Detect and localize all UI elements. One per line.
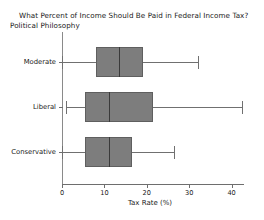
whisker-low-line bbox=[62, 62, 96, 63]
x-tick bbox=[232, 185, 233, 188]
category-label-conservative: Conservative bbox=[11, 148, 56, 156]
x-tick bbox=[62, 185, 63, 188]
box-iqr bbox=[85, 92, 153, 122]
x-tick-label: 40 bbox=[227, 189, 235, 197]
median-line bbox=[109, 137, 110, 167]
category-label-liberal: Liberal bbox=[33, 103, 56, 111]
y-tick bbox=[59, 107, 63, 108]
cap-low bbox=[62, 146, 63, 159]
x-tick bbox=[104, 185, 105, 188]
x-axis-line bbox=[62, 184, 244, 185]
median-line bbox=[119, 47, 120, 77]
x-axis-label: Tax Rate (%) bbox=[128, 199, 172, 207]
median-line bbox=[109, 92, 110, 122]
cap-low bbox=[62, 56, 63, 69]
cap-low bbox=[66, 101, 67, 114]
whisker-high-line bbox=[132, 152, 174, 153]
x-tick bbox=[189, 185, 190, 188]
x-tick bbox=[147, 185, 148, 188]
whisker-low-line bbox=[62, 152, 85, 153]
chart-title: What Percent of Income Should Be Paid in… bbox=[19, 11, 248, 20]
x-tick-label: 30 bbox=[185, 189, 193, 197]
whisker-high-line bbox=[143, 62, 198, 63]
cap-high bbox=[198, 56, 199, 69]
cap-high bbox=[174, 146, 175, 159]
category-label-moderate: Moderate bbox=[24, 58, 56, 66]
whisker-low-line bbox=[66, 107, 85, 108]
x-tick-label: 10 bbox=[100, 189, 108, 197]
chart-subtitle: Political Philosophy bbox=[10, 21, 80, 30]
whisker-high-line bbox=[153, 107, 242, 108]
x-tick-label: 0 bbox=[60, 189, 64, 197]
cap-high bbox=[242, 101, 243, 114]
chart-figure: What Percent of Income Should Be Paid in… bbox=[0, 0, 264, 220]
x-tick-label: 20 bbox=[143, 189, 151, 197]
